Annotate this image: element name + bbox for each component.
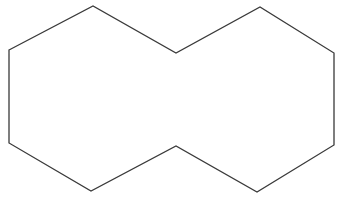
diagram-canvas [0,0,343,199]
hexagon-outline [9,6,334,192]
fused-hexagon-shape [0,0,343,199]
